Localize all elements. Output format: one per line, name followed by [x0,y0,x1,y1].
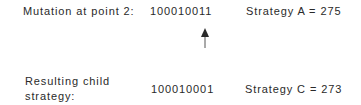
result-bitstring: 100010001 [151,83,214,96]
result-label-line1: Resulting child [25,75,110,88]
mutation-label: Mutation at point 2: [23,5,135,18]
strategy-c-value: Strategy C = 273 [245,83,342,96]
mutation-point-arrow-icon [200,28,210,48]
result-label-line2: strategy: [25,90,75,103]
mutation-bitstring: 100010011 [150,5,212,18]
strategy-a-value: Strategy A = 275 [246,5,341,18]
